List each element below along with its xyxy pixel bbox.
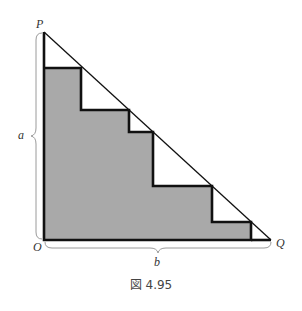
shaded-staircase-region bbox=[44, 68, 251, 240]
label-a: a bbox=[18, 128, 24, 142]
label-p: P bbox=[35, 17, 44, 31]
label-q: Q bbox=[276, 236, 285, 250]
figure-caption: 図 4.95 bbox=[0, 275, 302, 292]
bottom-brace-b bbox=[45, 242, 271, 253]
label-o: O bbox=[33, 240, 42, 254]
triangle-staircase-diagram: P O Q a b bbox=[0, 0, 302, 311]
label-b: b bbox=[154, 255, 160, 269]
left-brace-a bbox=[31, 33, 42, 239]
